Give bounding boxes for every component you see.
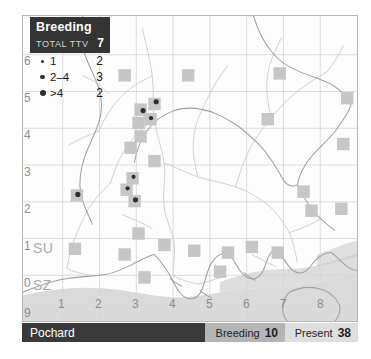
axis-tick-left-0: 0 [24, 277, 31, 289]
status-breeding-section: Breeding 10 [205, 323, 285, 342]
axis-tick-bottom-4: 4 [169, 298, 176, 310]
present-square [274, 67, 286, 79]
breeding-dot [140, 108, 145, 113]
present-square [138, 271, 150, 283]
present-square [297, 185, 309, 197]
legend-dot-medium-icon [36, 75, 49, 80]
legend-row-1: 1 2 [30, 53, 110, 69]
present-square [262, 113, 274, 125]
legend-count-3: 2 [96, 86, 104, 100]
axis-tick-bottom-5: 5 [206, 298, 213, 310]
present-square [158, 239, 170, 251]
breeding-dot [75, 192, 80, 197]
axis-tick-bottom-3: 3 [132, 298, 139, 310]
present-square [118, 248, 130, 260]
axis-tick-bottom-7: 7 [280, 298, 287, 310]
breeding-dot [149, 116, 153, 120]
present-square [337, 138, 349, 150]
present-square [124, 142, 136, 154]
legend-count-2: 3 [96, 70, 104, 84]
breeding-label: Breeding [216, 327, 260, 339]
legend-title: Breeding [30, 17, 110, 35]
legend-total-row: TOTAL TTV 7 [30, 35, 110, 53]
status-present-section: Present 38 [285, 323, 358, 342]
axis-tick-bottom-1: 1 [58, 298, 65, 310]
breeding-value: 10 [265, 326, 278, 340]
grid-square-label-su: SU [33, 240, 53, 256]
axis-tick-left-2: 2 [24, 203, 31, 215]
present-square [148, 155, 160, 167]
legend-row-3: >4 2 [30, 85, 110, 101]
breeding-dot [125, 186, 129, 190]
present-square [335, 203, 347, 215]
present-square [188, 245, 200, 257]
present-square [69, 243, 81, 255]
present-square [246, 241, 258, 253]
axis-bottom: 1 2 3 4 5 6 7 8 [22, 300, 358, 322]
breeding-dot [133, 197, 138, 202]
present-square [341, 92, 353, 104]
legend-label-1: 1 [49, 55, 56, 67]
present-square [134, 130, 146, 142]
breeding-dot [154, 99, 159, 104]
present-square [132, 117, 144, 129]
legend-dot-small-icon [36, 60, 49, 63]
breeding-dot [131, 175, 135, 179]
axis-tick-bottom-6: 6 [243, 298, 250, 310]
map-legend: Breeding TOTAL TTV 7 1 2 2–4 3 >4 2 [30, 17, 110, 101]
axis-tick-bottom-8: 8 [317, 298, 324, 310]
axis-tick-bottom-2: 2 [95, 298, 102, 310]
present-label: Present [295, 327, 333, 339]
legend-label-3: >4 [49, 87, 63, 99]
present-value: 38 [338, 326, 351, 340]
species-label: Pochard [30, 326, 75, 340]
present-square [182, 69, 194, 81]
present-square [132, 227, 144, 239]
present-square [222, 246, 234, 258]
axis-tick-left-4: 4 [24, 129, 31, 141]
present-square [214, 265, 226, 277]
legend-label-2: 2–4 [49, 71, 69, 83]
legend-total-label: TOTAL TTV [36, 39, 89, 49]
status-bar: Pochard Breeding 10 Present 38 [22, 323, 358, 342]
present-square [118, 69, 130, 81]
status-species-name: Pochard [22, 323, 205, 342]
present-square [148, 98, 160, 110]
legend-total-value: 7 [97, 36, 104, 50]
grid-square-label-sz: SZ [33, 277, 52, 293]
axis-tick-left-1: 1 [24, 240, 31, 252]
legend-count-1: 2 [96, 54, 104, 68]
legend-row-2: 2–4 3 [30, 69, 110, 85]
axis-tick-left-3: 3 [24, 166, 31, 178]
present-square [305, 204, 317, 216]
present-square [272, 246, 284, 258]
legend-dot-large-icon [36, 90, 49, 96]
